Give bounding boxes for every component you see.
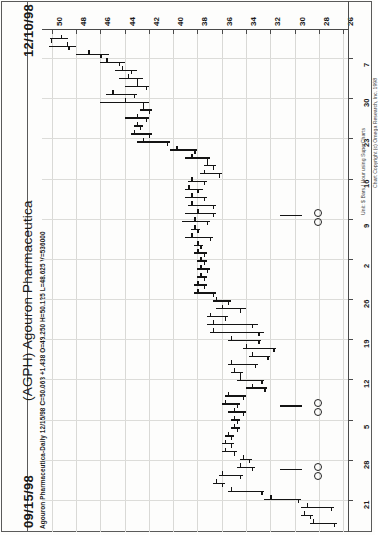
price-tick (222, 29, 223, 34)
ohlc-close-tick (194, 150, 195, 154)
ohlc-open-tick (210, 313, 211, 317)
date-tick (348, 98, 353, 99)
price-tick (319, 29, 320, 34)
ohlc-close-tick (240, 309, 241, 313)
grid-line-vertical (222, 30, 223, 532)
ohlc-close-tick (225, 317, 226, 321)
grid-line-vertical (125, 30, 126, 532)
ohlc-close-tick (219, 174, 220, 178)
annotation-leader-line (280, 215, 302, 216)
ohlc-bar (76, 54, 109, 55)
ohlc-close-tick (243, 412, 244, 416)
ohlc-open-tick (194, 225, 195, 229)
ohlc-open-tick (137, 114, 138, 118)
ohlc-close-tick (231, 436, 232, 440)
ohlc-open-tick (228, 392, 229, 396)
price-tick (52, 29, 53, 34)
ohlc-close-tick (207, 221, 208, 225)
grid-line-vertical (246, 30, 247, 532)
grid-line-horizontal (42, 299, 348, 300)
grid-line-vertical (295, 30, 296, 532)
date-axis-label: 12 (362, 380, 371, 388)
ohlc-bar (185, 237, 212, 238)
grid-line-vertical (343, 30, 344, 532)
ohlc-bar (228, 364, 258, 365)
ohlc-close-tick (237, 420, 238, 424)
annotation-circle-icon (314, 399, 322, 407)
grid-line-vertical (52, 30, 53, 532)
date-axis-label: 5 (362, 424, 371, 428)
price-axis-label: 38 (200, 17, 209, 26)
ohlc-open-tick (231, 487, 232, 491)
price-tick (149, 29, 150, 34)
price-axis-label: 50 (55, 17, 64, 26)
header-strip: 12/10/98 (AGPH) Agouron Pharmaceutica 09… (1, 1, 28, 532)
ohlc-open-tick (191, 233, 192, 237)
ohlc-open-tick (207, 162, 208, 166)
annotation-circle-icon (314, 472, 322, 480)
ohlc-close-tick (258, 340, 259, 344)
ohlc-bar (115, 70, 136, 71)
ohlc-bar (231, 427, 240, 428)
date-axis-label: 21 (362, 501, 371, 509)
date-tick (348, 339, 353, 340)
ohlc-open-tick (200, 257, 201, 261)
ohlc-bar (243, 348, 276, 349)
date-tick (348, 179, 353, 180)
ohlc-open-tick (246, 344, 247, 348)
ohlc-close-tick (197, 189, 198, 193)
ohlc-open-tick (191, 193, 192, 197)
date-axis-label: 9 (362, 224, 371, 228)
ohlc-open-tick (240, 463, 241, 467)
price-axis-label: 28 (322, 17, 331, 26)
ohlc-open-tick (112, 90, 113, 94)
annotation-circle-icon (314, 463, 322, 471)
ohlc-close-tick (252, 324, 253, 328)
ohlc-open-tick (194, 217, 195, 221)
ohlc-bar (134, 125, 143, 126)
ohlc-close-tick (243, 396, 244, 400)
ohlc-close-tick (140, 126, 141, 130)
ohlc-bar (106, 94, 136, 95)
date-tick (348, 259, 353, 260)
ohlc-bar (197, 276, 206, 277)
price-axis-line (42, 29, 348, 30)
date-tick (348, 420, 353, 421)
ohlc-close-tick (331, 507, 332, 511)
ohlc-open-tick (197, 289, 198, 293)
price-axis-label: 30 (298, 17, 307, 26)
ohlc-close-tick (237, 428, 238, 432)
ohlc-open-tick (270, 495, 271, 499)
price-tick (125, 29, 126, 34)
ohlc-bar (49, 46, 76, 47)
ohlc-close-tick (267, 356, 268, 360)
ohlc-bar (228, 491, 264, 492)
date-tick (348, 379, 353, 380)
ohlc-open-tick (197, 209, 198, 213)
ohlc-open-tick (88, 50, 89, 54)
ohlc-close-tick (210, 237, 211, 241)
grid-line-vertical (270, 30, 271, 532)
ohlc-close-tick (258, 332, 259, 336)
ohlc-open-tick (231, 336, 232, 340)
ohlc-open-tick (61, 35, 62, 39)
annotation-leader-line (280, 405, 302, 406)
price-axis-label: 46 (103, 17, 112, 26)
ohlc-close-tick (149, 110, 150, 114)
ohlc-open-tick (143, 138, 144, 142)
date-axis-label: 30 (362, 99, 371, 107)
ohlc-close-tick (204, 181, 205, 185)
ohlc-open-tick (216, 297, 217, 301)
ohlc-close-tick (240, 475, 241, 479)
date-tick (348, 219, 353, 220)
ohlc-close-tick (204, 277, 205, 281)
price-axis-label: 42 (152, 17, 161, 26)
grid-line-horizontal (42, 460, 348, 461)
annotation-leader-line (280, 469, 302, 470)
price-tick (270, 29, 271, 34)
grid-line-horizontal (42, 420, 348, 421)
price-axis-label: 36 (225, 17, 234, 26)
ohlc-bar (207, 324, 259, 325)
grid-line-vertical (149, 30, 150, 532)
ohlc-open-tick (222, 471, 223, 475)
